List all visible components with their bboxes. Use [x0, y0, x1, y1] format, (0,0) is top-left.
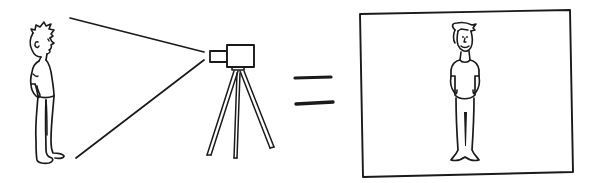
- tripod-icon: [207, 71, 274, 158]
- subject-person: [30, 22, 64, 163]
- equals-icon: [295, 77, 333, 104]
- camera-field-of-view: [70, 18, 204, 158]
- video-camera-icon: [210, 45, 254, 70]
- filmed-person: [451, 23, 480, 161]
- screen-frame: [360, 10, 573, 177]
- illustration-canvas: [0, 0, 600, 183]
